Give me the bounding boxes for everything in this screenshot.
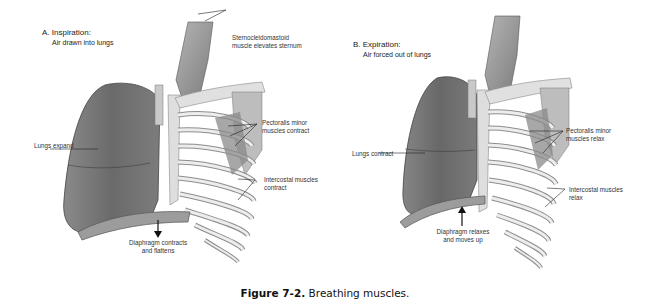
panel-expiration: B. Expiration: Air forced out of lungs L… — [325, 0, 650, 280]
label-line: Intercostal muscles — [264, 176, 318, 184]
figure-caption: Figure 7-2. Breathing muscles. — [0, 287, 650, 299]
caption-label: Figure 7-2. — [241, 287, 306, 299]
lung — [403, 77, 477, 214]
label-intercostal: Intercostal muscles contract — [264, 176, 318, 191]
label-lungs-expand: Lungs expand — [34, 142, 74, 150]
label-diaphragm: Diaphragm relaxes and moves up — [428, 228, 498, 243]
lung — [64, 83, 160, 232]
label-line: muscles relax — [566, 135, 611, 143]
caption-text: Breathing muscles. — [305, 287, 409, 299]
sternocleidomastoid-muscle — [176, 22, 213, 98]
label-line: Intercostal muscles — [569, 186, 623, 194]
arrow-up-icon — [458, 206, 466, 226]
trachea — [468, 80, 476, 118]
label-line: Diaphragm contracts — [120, 239, 196, 247]
title-text: A. Inspiration: — [42, 28, 91, 37]
label-lungs-contract: Lungs contract — [352, 150, 393, 158]
label-line: and moves up — [428, 236, 498, 244]
label-line: muscles contract — [262, 127, 309, 135]
label-line: Lungs expand — [34, 142, 74, 150]
label-pectoralis-minor: Pectoralis minor muscles relax — [566, 127, 611, 142]
panel-inspiration: A. Inspiration: Air drawn into lungs Ste… — [0, 0, 325, 280]
label-line: Diaphragm relaxes — [428, 228, 498, 236]
label-line: Pectoralis minor — [566, 127, 611, 135]
expiration-title: B. Expiration: Air forced out of lungs — [353, 40, 431, 59]
sternum — [477, 90, 490, 212]
label-diaphragm: Diaphragm contracts and flattens — [120, 239, 196, 254]
subtitle-text: Air forced out of lungs — [353, 50, 431, 60]
label-line: contract — [264, 184, 318, 192]
label-intercostal: Intercostal muscles relax — [569, 186, 623, 201]
label-pectoralis-minor: Pectoralis minor muscles contract — [262, 119, 309, 134]
inspiration-title: A. Inspiration: Air drawn into lungs — [42, 28, 113, 47]
label-line: muscle elevates sternum — [232, 42, 302, 50]
title-text: B. Expiration: — [353, 40, 401, 49]
label-line: and flattens — [120, 247, 196, 255]
subtitle-text: Air drawn into lungs — [42, 38, 113, 48]
trachea — [155, 85, 163, 125]
label-sternocleidomastoid: Sternocleidomastoid muscle elevates ster… — [232, 34, 302, 49]
label-line: Lungs contract — [352, 150, 393, 158]
sternum — [168, 95, 180, 205]
sternocleidomastoid-muscle — [485, 16, 520, 95]
label-line: relax — [569, 194, 623, 202]
label-line: Pectoralis minor — [262, 119, 309, 127]
label-line: Sternocleidomastoid — [232, 34, 302, 42]
